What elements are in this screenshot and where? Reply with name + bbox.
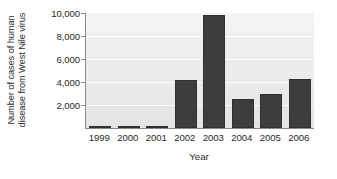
y-axis-title-line-1: Number of cases of human [6, 15, 17, 124]
y-axis-tick-label: 2,000 [26, 100, 80, 111]
bar-series [86, 13, 314, 128]
bar [260, 94, 282, 129]
x-axis-tick-label: 2003 [203, 132, 224, 143]
y-axis-tick-label: 4,000 [26, 77, 80, 88]
y-axis-tick-labels: 2,0004,0006,0008,00010,000 [26, 0, 80, 145]
bar [89, 126, 111, 128]
bar [118, 126, 140, 128]
x-axis-tick-label: 2006 [288, 132, 309, 143]
x-axis-tick-label: 1999 [89, 132, 110, 143]
bar [146, 126, 168, 128]
bar [203, 15, 225, 128]
x-axis-tick-label: 2001 [146, 132, 167, 143]
x-axis-tick-labels: 19992000200120022003200420052006 [85, 132, 313, 148]
bar-chart: Number of cases of human disease from We… [0, 0, 337, 179]
plot-area [85, 13, 314, 129]
x-axis-tick-label: 2000 [117, 132, 138, 143]
x-axis-title: Year [85, 151, 313, 162]
x-axis-tick-label: 2005 [260, 132, 281, 143]
y-axis-tick-label: 10,000 [26, 8, 80, 19]
bar [175, 80, 197, 128]
y-axis-tick-label: 8,000 [26, 31, 80, 42]
x-axis-tick-label: 2002 [174, 132, 195, 143]
y-axis-tick-label: 6,000 [26, 54, 80, 65]
x-axis-tick-label: 2004 [231, 132, 252, 143]
bar [232, 99, 254, 128]
bar [289, 79, 311, 128]
